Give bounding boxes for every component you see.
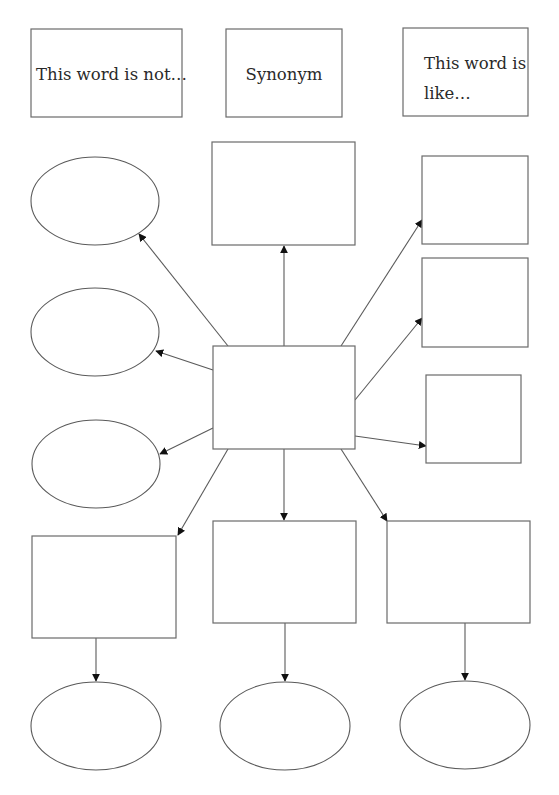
arrow-center-to-ellipse-left-2 — [156, 351, 213, 370]
box-bottom-center — [213, 521, 356, 623]
header-box-like-label-line-1: This word is — [424, 54, 526, 73]
header-box-synonym: Synonym — [226, 29, 342, 117]
box-bottom-right — [387, 521, 530, 623]
header-box-not: This word is not… — [31, 29, 187, 117]
box-right-3 — [426, 375, 521, 463]
header-box-like: This word is like… — [403, 28, 528, 116]
arrow-center-to-ellipse-left-3 — [160, 428, 213, 454]
box-right-1 — [422, 156, 528, 244]
ellipse-bottom-center — [220, 682, 350, 770]
ellipse-bottom-right — [400, 681, 530, 769]
header-box-synonym-label: Synonym — [246, 65, 323, 84]
ellipse-left-3 — [32, 420, 160, 508]
box-top — [212, 142, 355, 245]
arrow-center-to-box-right-3 — [355, 436, 426, 446]
ellipse-left-1 — [31, 157, 159, 245]
arrow-center-to-box-bottom-right — [341, 449, 387, 521]
header-box-not-label: This word is not… — [36, 65, 187, 84]
arrow-center-to-box-right-2 — [355, 318, 422, 400]
box-bottom-left — [32, 536, 176, 638]
ellipse-left-2 — [31, 288, 159, 376]
center-box — [213, 346, 355, 449]
box-right-2 — [422, 258, 528, 347]
concept-map-diagram: This word is not… Synonym This word is l… — [0, 0, 559, 795]
header-box-like-label-line-2: like… — [424, 84, 471, 103]
ellipse-bottom-left — [31, 682, 161, 770]
